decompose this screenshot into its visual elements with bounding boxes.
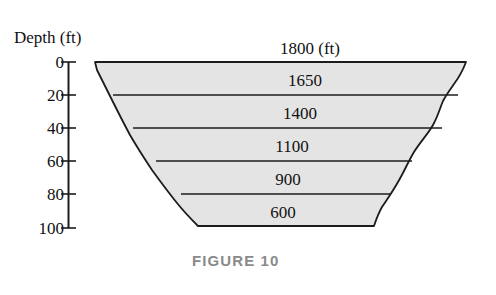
figure-10-container: Depth (ft) 0 20 40 60 80 100 xyxy=(0,0,496,295)
band-label-1650: 1650 xyxy=(288,72,322,89)
figure-caption: FIGURE 10 xyxy=(192,252,279,269)
depth-axis-rule xyxy=(61,62,76,228)
band-label-1100: 1100 xyxy=(275,138,308,155)
band-label-1400: 1400 xyxy=(283,105,317,122)
band-label-900: 900 xyxy=(275,171,301,188)
basin-cross-section-diagram xyxy=(0,0,496,295)
band-label-600: 600 xyxy=(270,204,296,221)
band-label-1800: 1800 (ft) xyxy=(280,40,340,57)
